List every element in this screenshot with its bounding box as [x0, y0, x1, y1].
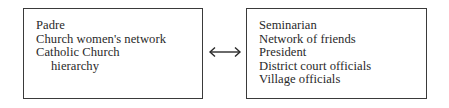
left-item-hierarchy: hierarchy — [36, 60, 166, 74]
right-item-network-of-friends: Network of friends — [259, 33, 371, 47]
right-network-box: Seminarian Network of friends President … — [246, 8, 427, 99]
left-item-church-womens-network: Church women's network — [36, 33, 166, 47]
left-network-box: Padre Church women's network Catholic Ch… — [23, 8, 203, 99]
right-network-list: Seminarian Network of friends President … — [259, 19, 371, 87]
right-item-district-court-officials: District court officials — [259, 60, 371, 74]
left-network-list: Padre Church women's network Catholic Ch… — [36, 19, 166, 73]
right-item-seminarian: Seminarian — [259, 19, 371, 33]
left-item-catholic-church: Catholic Church — [36, 46, 166, 60]
right-item-president: President — [259, 46, 371, 60]
double-arrow-icon — [208, 45, 242, 59]
right-item-village-officials: Village officials — [259, 73, 371, 87]
left-item-padre: Padre — [36, 19, 166, 33]
